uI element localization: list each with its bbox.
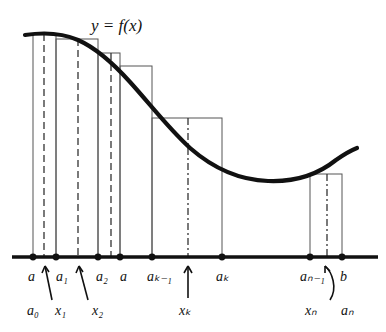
label-xn: xₙ	[304, 303, 317, 318]
figure-canvas: y = f(x) a a₁ a₂ a aₖ₋₁ aₖ aₙ₋₁ b a₀ x₁ …	[0, 0, 386, 332]
dot-adots	[117, 254, 124, 261]
label-a: a	[28, 269, 35, 284]
label-b: b	[340, 269, 347, 284]
rectangle-2	[56, 39, 98, 257]
arrow-x2	[79, 266, 88, 300]
label-a2: a₂	[96, 269, 108, 284]
label-xk: xₖ	[178, 303, 192, 318]
label-x2: x₂	[91, 303, 103, 318]
dot-ak-1	[149, 254, 156, 261]
curve-title: y = f(x)	[89, 16, 142, 35]
rectangle-4	[120, 66, 152, 257]
dot-a0	[30, 254, 37, 261]
label-a1: a₁	[56, 269, 68, 284]
dot-an-1	[307, 254, 314, 261]
rectangle-3	[98, 53, 120, 257]
label-x1: x₁	[54, 303, 66, 318]
dot-a1	[53, 254, 60, 261]
dot-b	[339, 254, 346, 261]
dot-a2	[95, 254, 102, 261]
rectangle-k	[152, 118, 222, 257]
sample-arrows	[42, 266, 334, 300]
dot-ak	[219, 254, 226, 261]
label-a0: a₀	[27, 303, 39, 318]
label-ak: aₖ	[216, 269, 230, 284]
label-an-1: aₙ₋₁	[300, 269, 325, 284]
label-an: aₙ	[341, 303, 354, 318]
riemann-sum-diagram: y = f(x) a a₁ a₂ a aₖ₋₁ aₖ aₙ₋₁ b a₀ x₁ …	[0, 0, 386, 332]
label-adots: a	[120, 269, 127, 284]
rectangle-n	[310, 174, 342, 257]
label-ak-1: aₖ₋₁	[147, 269, 172, 284]
function-curve	[25, 33, 357, 181]
